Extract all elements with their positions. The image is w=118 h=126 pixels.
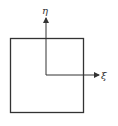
eta-label: η — [42, 5, 48, 16]
diagram-canvas: η ξ — [0, 0, 118, 126]
xi-label: ξ — [101, 70, 107, 81]
